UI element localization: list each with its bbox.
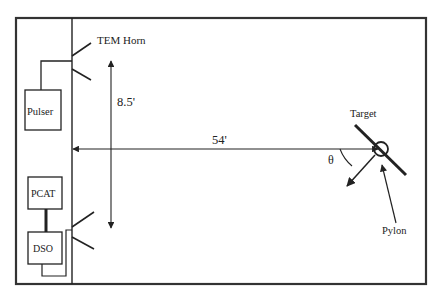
pylon-pointer-arrow	[382, 165, 396, 223]
pulser-label: Pulser	[27, 106, 54, 117]
pcat-label: PCAT	[31, 188, 55, 199]
pulser-cable	[41, 61, 72, 90]
tem-horn-upper-icon	[72, 43, 91, 80]
angle-arc	[340, 149, 352, 166]
pylon-label: Pylon	[382, 225, 407, 236]
reflection-arrow	[347, 155, 375, 186]
target-plate	[355, 125, 406, 175]
diagram-canvas: TEM Horn Pulser 8.5' 54' PCAT DSO Target…	[0, 0, 441, 301]
tem-horn-lower-icon	[72, 212, 94, 249]
target-label: Target	[350, 108, 377, 119]
theta-label: θ	[328, 153, 334, 167]
distance-dimension-label: 54'	[212, 133, 227, 147]
tem-horn-label: TEM Horn	[97, 34, 146, 46]
diagram-svg: TEM Horn Pulser 8.5' 54' PCAT DSO Target…	[0, 0, 441, 301]
outer-frame	[16, 18, 426, 284]
dso-label: DSO	[33, 243, 53, 254]
height-dimension-label: 8.5'	[117, 95, 135, 109]
